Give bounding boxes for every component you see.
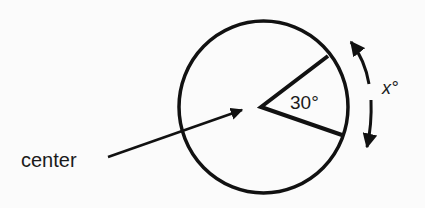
arc-label: x° [381, 78, 398, 98]
center-label: center [21, 149, 77, 171]
center-pointer-arrow [108, 110, 242, 157]
angle-label: 30° [290, 92, 319, 113]
circle-diagram: 30° x° center [0, 0, 425, 208]
arc-arrow-up [351, 42, 369, 84]
arc-arrow-down [367, 100, 371, 147]
